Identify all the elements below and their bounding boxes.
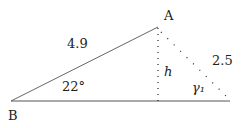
angle-b-label: 22° — [62, 79, 85, 94]
side-ac-label: 2.5 — [212, 53, 233, 68]
vertex-a-label: A — [163, 8, 174, 23]
side-ab-label: 4.9 — [67, 36, 88, 51]
angle-gamma-label: γ₁ — [192, 80, 205, 95]
triangle-diagram: A B 4.9 2.5 22° h γ₁ — [0, 0, 241, 128]
vertex-b-label: B — [8, 108, 18, 123]
height-label: h — [164, 64, 172, 79]
